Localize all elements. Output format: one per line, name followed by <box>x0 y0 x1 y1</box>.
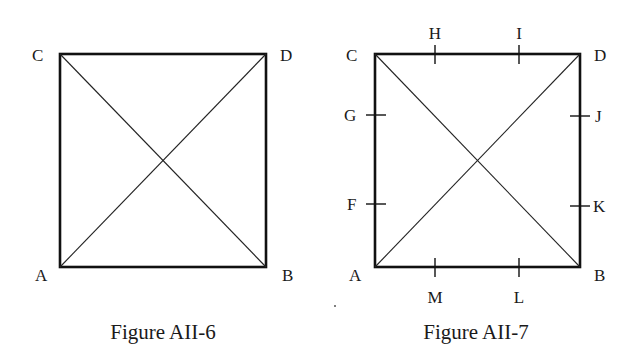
tick-label-k: K <box>593 197 606 216</box>
tick-label-f: F <box>347 195 356 214</box>
tick-label-m: M <box>427 288 442 307</box>
vertex-label-b: B <box>594 266 605 285</box>
vertex-label-c: C <box>346 46 357 65</box>
tick-label-l: L <box>514 288 524 307</box>
vertex-label-a: A <box>349 266 362 285</box>
tick-label-h: H <box>429 24 441 43</box>
vertex-label-c: C <box>32 46 43 65</box>
tick-label-i: I <box>516 24 522 43</box>
tick-label-g: G <box>344 106 356 125</box>
vertex-label-d: D <box>594 46 606 65</box>
stray-dot <box>334 305 336 307</box>
figures-canvas: C D A B Figure AII-6 C D A B H I G F J K… <box>0 0 640 364</box>
figure-caption: Figure AII-7 <box>423 320 529 344</box>
vertex-label-b: B <box>282 266 293 285</box>
vertex-label-a: A <box>35 266 48 285</box>
figure-aii-6: C D A B Figure AII-6 <box>32 46 293 344</box>
figure-caption: Figure AII-6 <box>110 320 216 344</box>
tick-label-j: J <box>595 107 602 126</box>
figure-aii-7: C D A B H I G F J K M L Figure AII-7 <box>334 24 606 344</box>
vertex-label-d: D <box>280 46 292 65</box>
